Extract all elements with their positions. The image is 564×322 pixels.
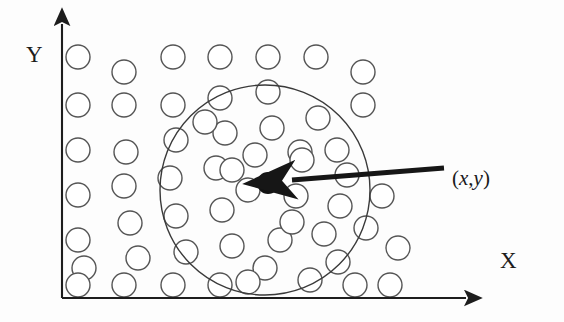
label-x-variable: x [459, 166, 468, 190]
data-point [66, 228, 90, 252]
data-point [161, 93, 185, 117]
x-axis-label: X [500, 248, 517, 274]
data-point [370, 184, 394, 208]
data-point [66, 93, 90, 117]
data-point [280, 210, 304, 234]
data-point [66, 273, 90, 297]
data-point [260, 116, 284, 140]
y-axis-label: Y [26, 42, 43, 68]
data-point [326, 250, 350, 274]
data-point [304, 45, 328, 69]
data-point [114, 140, 138, 164]
data-point [343, 273, 367, 297]
data-point [351, 93, 375, 117]
data-point [243, 143, 267, 167]
data-point [126, 246, 150, 270]
data-point [161, 45, 185, 69]
data-point [284, 184, 308, 208]
label-y-variable: y [474, 166, 483, 190]
data-point [193, 110, 217, 134]
data-point [174, 240, 198, 264]
label-open-paren: ( [452, 166, 459, 190]
data-point [256, 45, 280, 69]
data-point [220, 234, 244, 258]
figure-canvas [0, 0, 564, 322]
data-point [386, 236, 410, 260]
data-point [118, 211, 142, 235]
data-point [236, 270, 260, 294]
data-point [328, 194, 352, 218]
data-point [351, 60, 375, 84]
data-point [220, 158, 244, 182]
data-point [312, 222, 336, 246]
scatter-diagram-figure: Y X (x,y) [0, 0, 564, 322]
data-point [112, 60, 136, 84]
point-coordinate-label: (x,y) [452, 166, 490, 191]
data-point [208, 45, 232, 69]
data-point [161, 273, 185, 297]
data-point [66, 45, 90, 69]
data-point [112, 93, 136, 117]
data-point [164, 204, 188, 228]
data-point [112, 174, 136, 198]
data-point [256, 80, 280, 104]
label-close-paren: ) [483, 166, 490, 190]
data-point [236, 178, 260, 202]
data-point [164, 128, 188, 152]
query-point-dot [257, 172, 279, 194]
data-point [112, 273, 136, 297]
data-point [378, 273, 402, 297]
data-point [66, 138, 90, 162]
data-point [290, 148, 314, 172]
data-point [325, 138, 349, 162]
data-point [66, 183, 90, 207]
data-points-group [66, 45, 410, 297]
data-point [306, 106, 330, 130]
data-point [208, 86, 232, 110]
data-point [210, 198, 234, 222]
